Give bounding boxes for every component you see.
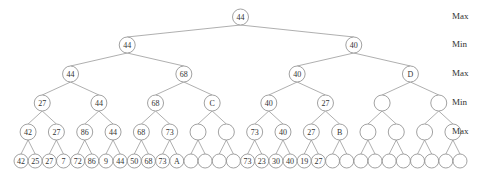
leaf-node: A <box>170 154 184 168</box>
tree-edge <box>418 140 425 154</box>
leaf-node: 40 <box>283 154 297 168</box>
node-value: 68 <box>152 99 160 108</box>
tree-edge <box>219 140 226 154</box>
node-value: 40 <box>265 99 273 108</box>
tree-edge <box>311 111 325 124</box>
leaf-node: 42 <box>14 154 28 168</box>
tree-edge <box>127 53 184 66</box>
tree-edge <box>453 140 460 154</box>
tree-edge <box>425 140 432 154</box>
tree-edge <box>49 140 56 154</box>
node-value: 44 <box>109 128 117 137</box>
tree-edge <box>212 111 226 124</box>
node-value: 72 <box>74 157 82 166</box>
node-value: 27 <box>307 128 315 137</box>
tree-edge <box>127 25 240 37</box>
tree-edge <box>439 111 453 124</box>
tree-edge <box>333 140 340 154</box>
tree-edge <box>106 140 113 154</box>
tree-edge <box>198 111 212 124</box>
node-value: 40 <box>279 128 287 137</box>
root-node: 44 <box>233 9 249 25</box>
tree-edge <box>156 82 184 95</box>
tree-edge <box>368 111 382 124</box>
node-circle <box>198 154 212 168</box>
node-circle <box>453 154 467 168</box>
node-value: 27 <box>314 157 322 166</box>
tree-edge <box>297 82 325 95</box>
minimax-tree: 444440446840D274468C40274227864468737340… <box>0 0 492 184</box>
node-value: 27 <box>321 99 329 108</box>
node-circle <box>360 124 376 140</box>
node-value: B <box>337 128 342 137</box>
tree-edge <box>382 82 410 95</box>
leaf-node: 86 <box>85 154 99 168</box>
leaf-node <box>212 154 226 168</box>
node-value: 42 <box>24 128 32 137</box>
node-circle <box>218 124 234 140</box>
tree-edge <box>304 140 311 154</box>
node-circle <box>340 154 354 168</box>
tree-node: 73 <box>247 124 263 140</box>
tree-edge <box>269 111 283 124</box>
leaf-node: 68 <box>141 154 155 168</box>
level-label-min: Min <box>452 97 467 107</box>
tree-node: 27 <box>303 124 319 140</box>
tree-edge <box>198 140 205 154</box>
tree-node: 40 <box>289 66 305 82</box>
leaf-node <box>226 154 240 168</box>
node-value: 44 <box>123 41 131 50</box>
tree-node: 44 <box>119 37 135 53</box>
tree-edge <box>28 140 35 154</box>
node-value: 73 <box>251 128 259 137</box>
node-value: 40 <box>293 70 301 79</box>
leaf-node: 27 <box>311 154 325 168</box>
node-circle <box>226 154 240 168</box>
leaf-node: 72 <box>71 154 85 168</box>
tree-edge <box>141 111 155 124</box>
tree-edge <box>340 140 347 154</box>
tree-node <box>218 124 234 140</box>
tree-node <box>374 95 390 111</box>
leaf-node <box>382 154 396 168</box>
leaf-node: 73 <box>156 154 170 168</box>
node-value: 50 <box>130 157 138 166</box>
leaf-node: 7 <box>56 154 70 168</box>
node-circle <box>354 154 368 168</box>
leaf-node <box>368 154 382 168</box>
tree-node: 68 <box>176 66 192 82</box>
tree-edge <box>283 140 290 154</box>
tree-edge <box>21 140 28 154</box>
node-value: 25 <box>31 157 39 166</box>
tree-node: 68 <box>148 95 164 111</box>
tree-node: 40 <box>275 124 291 140</box>
tree-node: C <box>204 95 220 111</box>
node-value: 73 <box>159 157 167 166</box>
tree-edge <box>113 140 120 154</box>
node-value: 23 <box>258 157 266 166</box>
node-value: 40 <box>350 41 358 50</box>
tree-node: 40 <box>261 95 277 111</box>
tree-node <box>431 95 447 111</box>
node-value: 30 <box>272 157 280 166</box>
tree-node: 44 <box>105 124 121 140</box>
tree-edge <box>191 140 198 154</box>
tree-node: B <box>332 124 348 140</box>
tree-edge <box>71 53 128 66</box>
leaf-node: 27 <box>42 154 56 168</box>
leaf-node <box>439 154 453 168</box>
leaf-node: 25 <box>28 154 42 168</box>
tree-node: 86 <box>77 124 93 140</box>
tree-edge <box>389 140 396 154</box>
tree-edge <box>226 140 233 154</box>
node-circle <box>417 124 433 140</box>
node-value: 27 <box>38 99 46 108</box>
node-value: 27 <box>45 157 53 166</box>
tree-node: 73 <box>162 124 178 140</box>
tree-node <box>360 124 376 140</box>
node-circle <box>396 154 410 168</box>
leaf-node <box>354 154 368 168</box>
node-circle <box>374 95 390 111</box>
tree-node: 27 <box>34 95 50 111</box>
tree-edge <box>71 82 99 95</box>
